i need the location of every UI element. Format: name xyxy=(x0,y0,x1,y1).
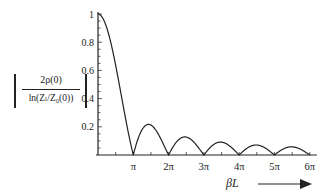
arrow-icon xyxy=(258,179,312,189)
tick-marks xyxy=(98,14,310,155)
x-tick-label: 5π xyxy=(269,161,280,172)
y-tick-label: 0.6 xyxy=(82,65,95,76)
y-tick-label: 1 xyxy=(89,9,94,20)
x-tick-label: 2π xyxy=(163,161,174,172)
y-label-numerator: 2ρ(0) xyxy=(20,74,82,85)
y-axis-label: 2ρ(0) ln(Zₗ/Z₀(0)) xyxy=(8,72,78,112)
x-tick-label: π xyxy=(131,161,137,172)
data-curve xyxy=(98,14,310,155)
x-axis-label: βL xyxy=(226,176,239,191)
axes xyxy=(96,12,317,155)
abs-bar-left xyxy=(14,74,16,108)
x-tick-label: 3π xyxy=(199,161,210,172)
y-label-denominator: ln(Zₗ/Z₀(0)) xyxy=(18,92,84,103)
abs-bar-right xyxy=(85,74,87,108)
y-tick-label: 0.2 xyxy=(82,121,95,132)
y-tick-label: 0.8 xyxy=(82,37,95,48)
x-tick-label: 6π xyxy=(305,161,316,172)
x-tick-label: 4π xyxy=(234,161,245,172)
fraction-line xyxy=(22,89,80,90)
